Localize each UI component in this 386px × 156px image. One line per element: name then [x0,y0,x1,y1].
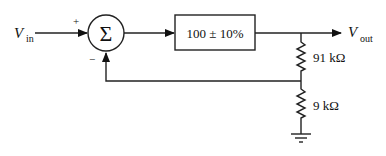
sigma-icon: Σ [100,21,113,46]
input-label: V in [14,25,34,44]
output-label: V out [348,24,373,44]
gain-block: 100 ± 10% [175,15,255,50]
svg-text:out: out [360,33,373,44]
block-diagram: V in + − Σ 100 ± 10% V out 91 kΩ 9 kΩ [0,0,386,156]
resistor-icon [297,33,305,81]
summing-junction: Σ [88,15,124,51]
svg-text:V: V [14,25,25,41]
resistor-icon [297,81,305,134]
minus-sign: − [89,53,95,65]
svg-text:9 kΩ: 9 kΩ [313,98,339,113]
feedback-wire [106,53,301,81]
gain-label: 100 ± 10% [187,26,244,41]
svg-text:91 kΩ: 91 kΩ [313,50,345,65]
resistor-91k: 91 kΩ [297,33,345,81]
ground-icon [291,134,311,142]
resistor-9k: 9 kΩ [297,81,339,134]
plus-sign: + [73,15,79,27]
svg-text:V: V [348,24,359,40]
svg-text:in: in [26,33,34,44]
